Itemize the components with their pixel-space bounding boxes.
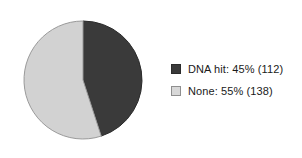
chart-legend: DNA hit: 45% (112) None: 55% (138) [171,58,299,102]
legend-swatch-outlined-icon [171,86,181,96]
pie-chart-svg [23,20,143,140]
pie-chart-figure: DNA hit: 45% (112) None: 55% (138) [0,0,302,158]
pie-chart-plot-area [23,20,143,140]
legend-item-none: None: 55% (138) [171,80,299,102]
legend-item-label: None: 55% (138) [188,85,273,97]
legend-item-dna-hit: DNA hit: 45% (112) [171,58,299,80]
legend-item-label: DNA hit: 45% (112) [188,63,283,75]
legend-swatch-filled-icon [171,64,181,74]
